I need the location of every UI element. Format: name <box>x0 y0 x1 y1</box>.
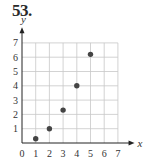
data-point <box>60 107 65 112</box>
x-tick-label: 0 <box>20 148 25 159</box>
y-tick-label: 5 <box>13 66 18 77</box>
x-tick-label: 4 <box>74 148 79 159</box>
x-tick-label: 7 <box>115 148 120 159</box>
y-tick-label: 2 <box>13 109 18 120</box>
y-tick-label: 7 <box>13 37 18 48</box>
x-axis-arrow-icon <box>129 141 135 146</box>
x-tick-label: 5 <box>88 148 93 159</box>
scatter-plot: xy012345671234567 <box>0 0 153 166</box>
y-axis-label: y <box>20 13 26 25</box>
x-tick-label: 1 <box>33 148 38 159</box>
data-point <box>88 52 93 57</box>
x-tick-label: 2 <box>47 148 52 159</box>
y-axis-arrow-icon <box>20 27 25 33</box>
x-axis-label: x <box>137 137 143 149</box>
data-point <box>33 136 38 141</box>
y-tick-label: 4 <box>13 80 18 91</box>
y-tick-label: 6 <box>13 52 18 63</box>
x-tick-label: 3 <box>61 148 66 159</box>
data-point <box>74 83 79 88</box>
y-tick-label: 1 <box>13 123 18 134</box>
y-tick-label: 3 <box>13 95 18 106</box>
x-tick-label: 6 <box>102 148 107 159</box>
data-point <box>47 126 52 131</box>
